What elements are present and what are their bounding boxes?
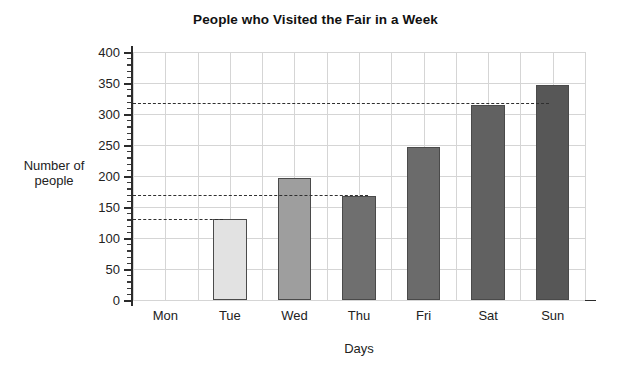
bar-chart-figure: People who Visited the Fair in a Week 05… xyxy=(0,0,631,378)
bar-sat[interactable] xyxy=(471,105,505,300)
y-axis-tick-labels: 050100150200250300350400 xyxy=(74,0,120,378)
y-axis-title: Number of people xyxy=(8,158,100,188)
y-tick-label: 250 xyxy=(80,138,120,153)
y-tick-label: 400 xyxy=(80,45,120,60)
x-tick-label-mon: Mon xyxy=(153,308,178,323)
reference-line xyxy=(133,219,223,220)
x-axis-title: Days xyxy=(133,341,585,356)
x-tick-label-wed: Wed xyxy=(281,308,308,323)
gridline-vertical xyxy=(456,52,457,300)
y-axis-title-line-2: people xyxy=(8,173,100,188)
x-tick-label-tue: Tue xyxy=(219,308,241,323)
gridline-horizontal xyxy=(133,300,585,301)
reference-line xyxy=(133,103,549,104)
y-tick-label: 150 xyxy=(80,200,120,215)
gridline-vertical xyxy=(327,52,328,300)
y-tick-label: 50 xyxy=(80,262,120,277)
bar-fri[interactable] xyxy=(407,147,441,300)
y-tick-label: 350 xyxy=(80,76,120,91)
bar-thu[interactable] xyxy=(342,196,376,300)
gridline-vertical xyxy=(198,52,199,300)
reference-line xyxy=(133,195,368,196)
y-axis-title-line-1: Number of xyxy=(8,158,100,173)
y-tick-label: 0 xyxy=(80,293,120,308)
x-tick-label-fri: Fri xyxy=(416,308,431,323)
bar-tue[interactable] xyxy=(213,219,247,300)
bar-wed[interactable] xyxy=(278,178,312,300)
x-tick-label-sat: Sat xyxy=(478,308,498,323)
y-tick-label: 100 xyxy=(80,231,120,246)
gridline-vertical xyxy=(520,52,521,300)
gridline-vertical xyxy=(391,52,392,300)
gridline-vertical xyxy=(585,52,586,300)
y-tick-label: 300 xyxy=(80,107,120,122)
gridline-vertical xyxy=(165,52,166,300)
x-tick-label-thu: Thu xyxy=(348,308,370,323)
plot-area xyxy=(133,52,585,300)
gridline-vertical xyxy=(133,52,134,300)
x-axis-tick-labels: MonTueWedThuFriSatSun xyxy=(133,308,585,332)
gridline-vertical xyxy=(262,52,263,300)
bar-sun[interactable] xyxy=(536,85,570,300)
x-tick-label-sun: Sun xyxy=(541,308,564,323)
